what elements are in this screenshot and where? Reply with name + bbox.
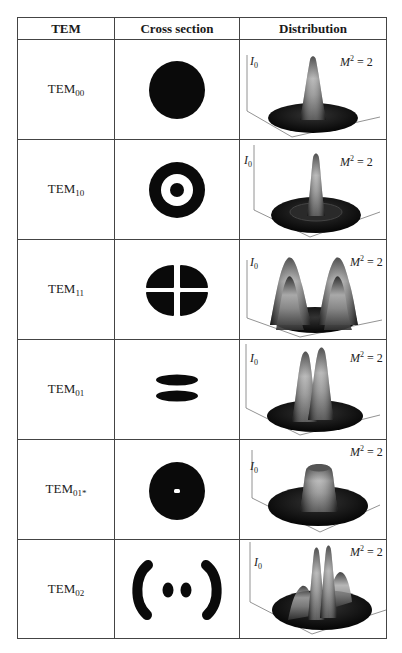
table-header-row: TEM Cross section Distribution: [18, 18, 386, 40]
two-peaks-plot-icon: I0 M2 = 2: [240, 340, 386, 439]
two-arcs-two-dots-icon: [115, 540, 239, 638]
cross-section-arcs-dots: [115, 540, 240, 638]
ring-with-dot-icon: [115, 140, 239, 239]
m2-label: M2 = 2: [349, 444, 383, 459]
distribution-plot: I0 M2 = 2: [240, 440, 386, 539]
four-lobes-icon: [115, 240, 239, 339]
tem-modes-table: TEM Cross section Distribution TEM00: [17, 17, 387, 639]
table-row: TEM11 I0 M2 = 2: [18, 240, 386, 340]
header-tem: TEM: [18, 18, 115, 39]
four-peaks-plot-icon: I0 M2 = 2: [240, 240, 386, 339]
distribution-plot: I0 M2 = 2: [240, 340, 386, 439]
mode-label: TEM01: [18, 340, 115, 439]
distribution-plot: I0 M2 = 2: [240, 240, 386, 339]
two-peaks-side-lobes-plot-icon: I0 M2 = 2: [240, 540, 386, 638]
m2-label: M2 = 2: [349, 254, 383, 269]
cross-section-four-lobes: [115, 240, 240, 339]
m2-label: M2 = 2: [349, 544, 383, 559]
cross-section-two-lobes: [115, 340, 240, 439]
flat-top-donut-plot-icon: I0 M2 = 2: [240, 440, 386, 539]
mode-label: TEM01*: [18, 440, 115, 539]
cross-section-solid-disk: [115, 40, 240, 139]
single-peak-plot-icon: I0 M2 = 2: [240, 40, 386, 139]
peak-with-ring-plot-icon: I0 M2 = 2: [240, 140, 386, 239]
solid-disk-icon: [115, 40, 239, 139]
axis-label-I0: I0: [249, 459, 258, 475]
axis-label-I0: I0: [243, 153, 252, 169]
table-row: TEM02 I0 M2 = 2: [18, 540, 386, 638]
table-row: TEM10 I0 M2 = 2: [18, 140, 386, 240]
two-horizontal-lobes-icon: [115, 340, 239, 439]
header-distribution: Distribution: [240, 18, 386, 39]
m2-label: M2 = 2: [349, 350, 383, 365]
distribution-plot: I0 M2 = 2: [240, 540, 386, 638]
table-row: TEM00: [18, 40, 386, 140]
mode-label: TEM10: [18, 140, 115, 239]
mode-label: TEM02: [18, 540, 115, 638]
cross-section-ring-with-dot: [115, 140, 240, 239]
distribution-plot: I0 M2 = 2: [240, 140, 386, 239]
axis-label-I0: I0: [253, 555, 262, 571]
donut-with-hole-icon: [115, 440, 239, 539]
mode-label: TEM11: [18, 240, 115, 339]
axis-label-I0: I0: [249, 54, 258, 70]
mode-label: TEM00: [18, 40, 115, 139]
m2-label: M2 = 2: [339, 154, 373, 169]
header-cross-section: Cross section: [115, 18, 240, 39]
table-row: TEM01* I0 M2 = 2: [18, 440, 386, 540]
distribution-plot: I0 M2 = 2: [240, 40, 386, 139]
m2-label: M2 = 2: [339, 54, 373, 69]
axis-label-I0: I0: [249, 255, 258, 271]
table-row: TEM01 I0 M2 = 2: [18, 340, 386, 440]
axis-label-I0: I0: [249, 351, 258, 367]
cross-section-donut: [115, 440, 240, 539]
